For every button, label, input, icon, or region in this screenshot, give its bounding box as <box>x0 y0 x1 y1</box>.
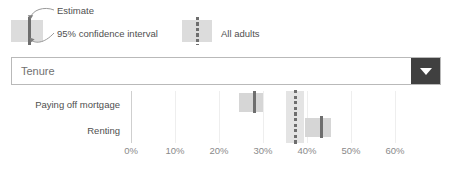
ci-band-renting <box>305 118 331 137</box>
all-adults-dashed-line <box>196 17 199 45</box>
all-adults-swatch <box>182 20 212 42</box>
tick-label-60: 60% <box>385 145 404 156</box>
ci-band-paying-off-mortgage <box>239 93 263 112</box>
legend-label-all-adults: All adults <box>221 28 260 40</box>
chart-legend: Estimate 95% confidence interval All adu… <box>0 0 454 52</box>
plot-area <box>131 91 417 143</box>
tenure-chart: Paying off mortgage Renting 0% 10% 20% 3… <box>0 89 454 169</box>
gridline-20 <box>219 91 220 143</box>
category-axis: Paying off mortgage Renting <box>0 91 126 143</box>
ci-swatch <box>11 20 43 42</box>
legend-label-estimate: Estimate <box>57 5 94 17</box>
gridline-10 <box>175 91 176 143</box>
tick-label-20: 20% <box>209 145 228 156</box>
estimate-callout-arrow-path <box>31 8 55 18</box>
tick-label-50: 50% <box>341 145 360 156</box>
tick-label-0: 0% <box>124 145 138 156</box>
dropdown-selected-value: Tenure <box>21 65 55 77</box>
value-axis: 0% 10% 20% 30% 40% 50% 60% <box>131 145 431 165</box>
chevron-down-icon <box>420 68 432 75</box>
gridline-50 <box>351 91 352 143</box>
tick-label-40: 40% <box>297 145 316 156</box>
estimate-mark-paying-off-mortgage <box>253 91 256 113</box>
gridline-60 <box>395 91 396 143</box>
estimate-mark-renting <box>320 116 323 138</box>
gridline-0 <box>131 91 132 143</box>
category-label-paying-off-mortgage: Paying off mortgage <box>35 99 120 110</box>
tick-label-10: 10% <box>165 145 184 156</box>
estimate-swatch <box>28 17 31 45</box>
all-adults-reference-line <box>294 90 297 144</box>
gridline-30 <box>263 91 264 143</box>
legend-label-confidence-interval: 95% confidence interval <box>57 28 158 40</box>
dropdown-toggle-button[interactable] <box>411 58 440 84</box>
tenure-dropdown[interactable]: Tenure <box>11 57 441 85</box>
tick-label-30: 30% <box>253 145 272 156</box>
category-label-renting: Renting <box>87 125 120 136</box>
